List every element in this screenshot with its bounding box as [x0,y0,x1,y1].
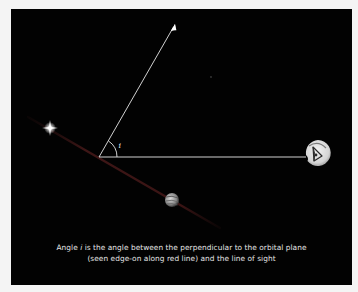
perpendicular-arrow [99,24,176,157]
caption: Angle i is the angle between the perpend… [11,242,352,264]
eye-icon [306,140,331,166]
caption-line-1: Angle i is the angle between the perpend… [11,242,352,253]
distant-speck [210,76,212,78]
angle-label: i [119,141,122,150]
caption-line-2: (seen edge-on along red line) and the li… [11,253,352,264]
caption-suffix: is the angle between the perpendicular t… [82,243,306,252]
angle-arc [109,141,118,157]
planet-icon [165,193,179,207]
orbital-plane-line [28,117,220,228]
caption-prefix: Angle [56,243,80,252]
